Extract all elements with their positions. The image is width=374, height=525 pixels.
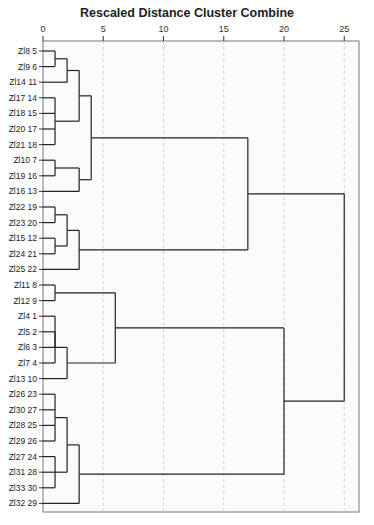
leaf-label: Zl5 2 — [18, 327, 37, 337]
leaf-label: Zl4 1 — [18, 311, 37, 321]
x-tick-label: 5 — [101, 24, 106, 34]
x-tick-label: 15 — [219, 24, 229, 34]
leaf-label: Zl21 18 — [9, 140, 38, 150]
dendrogram-plot: 0510152025Zl8 5Zl9 6Zl14 11Zl17 14Zl18 1… — [0, 0, 374, 525]
x-tick-label: 20 — [279, 24, 289, 34]
leaf-label: Zl18 15 — [9, 108, 38, 118]
leaf-label: Zl25 22 — [9, 264, 38, 274]
leaf-label: Zl29 26 — [9, 436, 38, 446]
plot-frame — [43, 41, 359, 512]
leaf-label: Zl17 14 — [9, 93, 38, 103]
leaf-label: Zl11 8 — [14, 280, 37, 290]
leaf-label: Zl8 5 — [18, 46, 37, 56]
dendrogram-chart: Rescaled Distance Cluster Combine 051015… — [0, 0, 374, 525]
leaf-label: Zl15 12 — [9, 233, 38, 243]
x-tick-label: 10 — [158, 24, 168, 34]
leaf-label: Zl16 13 — [9, 186, 38, 196]
leaf-label: Zl13 10 — [9, 374, 38, 384]
leaf-label: Zl32 29 — [9, 498, 38, 508]
leaf-label: Zl33 30 — [9, 483, 38, 493]
leaf-label: Zl28 25 — [9, 420, 38, 430]
leaf-label: Zl7 4 — [18, 358, 37, 368]
leaf-label: Zl14 11 — [9, 77, 37, 87]
x-tick-label: 25 — [339, 24, 349, 34]
leaf-label: Zl31 28 — [9, 467, 38, 477]
leaf-label: Zl20 17 — [9, 124, 38, 134]
leaf-label: Zl27 24 — [9, 452, 38, 462]
leaf-label: Zl26 23 — [9, 389, 38, 399]
leaf-label: Zl24 21 — [9, 249, 38, 259]
leaf-label: Zl19 16 — [9, 171, 38, 181]
leaf-label: Zl6 3 — [18, 342, 37, 352]
leaf-label: Zl22 19 — [9, 202, 38, 212]
leaf-label: Zl12 9 — [13, 296, 37, 306]
x-tick-label: 0 — [40, 24, 45, 34]
leaf-label: Zl30 27 — [9, 405, 38, 415]
leaf-label: Zl23 20 — [9, 218, 38, 228]
leaf-label: Zl10 7 — [13, 155, 37, 165]
leaf-label: Zl9 6 — [18, 62, 37, 72]
